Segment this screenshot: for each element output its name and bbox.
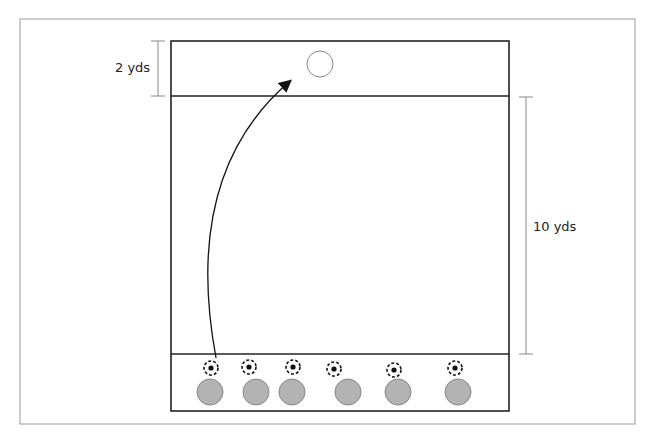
soccer-ball-icon bbox=[242, 360, 256, 374]
soccer-ball-icon bbox=[387, 363, 401, 377]
dimension-10yds bbox=[519, 97, 533, 354]
drill-diagram: 2 yds 10 yds bbox=[0, 0, 655, 445]
label-10yds: 10 yds bbox=[533, 219, 577, 234]
player-marker bbox=[445, 379, 471, 405]
soccer-ball-icon bbox=[327, 362, 341, 376]
player-marker bbox=[385, 379, 411, 405]
player-marker bbox=[335, 379, 361, 405]
soccer-ball-icon bbox=[286, 360, 300, 374]
soccer-ball-icon bbox=[204, 361, 218, 375]
dimension-2yds bbox=[151, 41, 165, 96]
player-marker bbox=[279, 379, 305, 405]
soccer-ball-icon bbox=[448, 361, 462, 375]
player-marker bbox=[243, 379, 269, 405]
target-circle bbox=[307, 51, 333, 77]
label-2yds: 2 yds bbox=[115, 60, 150, 75]
player-marker bbox=[197, 379, 223, 405]
